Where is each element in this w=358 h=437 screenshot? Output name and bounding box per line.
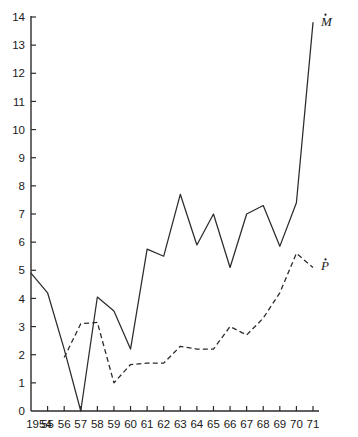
series-line-p-dot xyxy=(64,253,313,382)
x-tick-label: 68 xyxy=(257,418,270,430)
y-tick-label: 0 xyxy=(19,405,25,417)
x-tick-label: 60 xyxy=(124,418,137,430)
x-tick-label: 58 xyxy=(91,418,104,430)
x-tick-label: 69 xyxy=(273,418,286,430)
series-labels: MP xyxy=(320,14,333,274)
y-tick-label: 12 xyxy=(12,67,25,79)
y-tick-label: 2 xyxy=(19,349,25,361)
y-tick-label: 14 xyxy=(12,11,25,23)
x-tick-label: 64 xyxy=(190,418,203,430)
y-tick-label: 3 xyxy=(19,321,25,333)
y-tick-label: 10 xyxy=(12,124,25,136)
x-tick-label: 55 xyxy=(41,418,54,430)
y-tick-label: 1 xyxy=(19,377,25,389)
y-tick-label: 4 xyxy=(19,293,26,305)
y-tick-label: 11 xyxy=(13,96,25,108)
y-tick-label: 8 xyxy=(19,180,25,192)
series-label-m-dot: M xyxy=(320,14,333,29)
y-axis-ticks: 01234567891011121314 xyxy=(12,11,36,417)
x-tick-label: 67 xyxy=(240,418,253,430)
x-tick-label: 57 xyxy=(74,418,87,430)
y-tick-label: 13 xyxy=(12,39,25,51)
x-tick-label: 56 xyxy=(58,418,71,430)
x-tick-label: 70 xyxy=(290,418,303,430)
x-axis-ticks: 19545556575859606162636465666768697071 xyxy=(26,406,319,430)
x-tick-label: 59 xyxy=(108,418,121,430)
series-label-dot-accent-icon xyxy=(324,14,326,16)
y-tick-label: 9 xyxy=(19,152,25,164)
series-label-dot-accent-icon xyxy=(324,258,326,260)
x-tick-label: 66 xyxy=(224,418,237,430)
y-tick-label: 6 xyxy=(19,236,25,248)
x-tick-label: 63 xyxy=(174,418,187,430)
line-chart: 01234567891011121314 1954555657585960616… xyxy=(0,0,358,437)
x-tick-label: 71 xyxy=(307,418,320,430)
y-tick-label: 7 xyxy=(19,208,25,220)
y-tick-label: 5 xyxy=(19,264,25,276)
chart-container: 01234567891011121314 1954555657585960616… xyxy=(0,0,358,437)
x-tick-label: 62 xyxy=(157,418,170,430)
series-label-p-dot: P xyxy=(320,258,329,273)
series-line-m-dot xyxy=(31,23,313,411)
x-tick-label: 65 xyxy=(207,418,220,430)
x-tick-label: 61 xyxy=(141,418,154,430)
